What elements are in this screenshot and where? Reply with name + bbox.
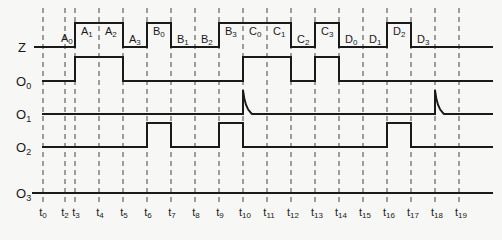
tick-label: t3 <box>72 206 80 220</box>
o0-waveform <box>42 57 493 81</box>
tick-label: t10 <box>239 206 252 220</box>
tick-label: t9 <box>216 206 224 220</box>
signal-label-o3: O3 <box>16 186 31 203</box>
state-label: D2 <box>393 25 406 39</box>
time-gridlines <box>43 8 459 204</box>
tick-label: t0 <box>39 206 47 220</box>
tick-label: t18 <box>431 206 444 220</box>
tick-label: t4 <box>96 206 104 220</box>
signal-label-o2: O2 <box>16 140 31 157</box>
state-label: C3 <box>321 25 334 39</box>
state-label: A0 <box>61 32 73 46</box>
state-label: B1 <box>177 33 189 47</box>
signal-labels: Z O0 O1 O2 O3 <box>16 40 31 203</box>
tick-label: t11 <box>263 206 275 220</box>
tick-label: t12 <box>287 206 300 220</box>
state-label: B0 <box>153 25 165 39</box>
tick-label: t13 <box>311 206 324 220</box>
tick-label: t2 <box>61 206 69 220</box>
state-label: B3 <box>225 25 237 39</box>
state-label: D0 <box>345 33 358 47</box>
time-tick-labels: t0 t2 t3 t4 t5 t6 t7 t8 t9 t10 t11 t12 t… <box>39 206 467 220</box>
signal-label-o0: O0 <box>16 74 31 91</box>
tick-label: t16 <box>383 206 396 220</box>
tick-label: t14 <box>335 206 348 220</box>
tick-label: t8 <box>192 206 200 220</box>
state-label: A1 <box>81 25 93 39</box>
tick-label: t15 <box>359 206 372 220</box>
tick-label: t7 <box>168 206 176 220</box>
state-label: B2 <box>201 33 213 47</box>
state-label: C1 <box>273 25 286 39</box>
tick-label: t17 <box>407 206 420 220</box>
state-label: D1 <box>369 33 382 47</box>
signal-label-o1: O1 <box>16 107 31 124</box>
state-label: A2 <box>105 25 117 39</box>
z-state-labels: A0 A1 A2 A3 B0 B1 B2 B3 C0 C1 C2 C3 D0 D… <box>61 25 430 47</box>
signal-label-z: Z <box>18 40 26 55</box>
tick-label: t5 <box>120 206 128 220</box>
timing-diagram: Z O0 O1 O2 O3 A0 A1 A2 A3 B0 B1 B2 B3 C0… <box>0 0 502 240</box>
state-label: C0 <box>249 25 262 39</box>
tick-label: t6 <box>144 206 152 220</box>
state-label: C2 <box>297 33 310 47</box>
state-label: A3 <box>129 33 141 47</box>
state-label: D3 <box>417 33 430 47</box>
tick-label: t19 <box>455 206 468 220</box>
